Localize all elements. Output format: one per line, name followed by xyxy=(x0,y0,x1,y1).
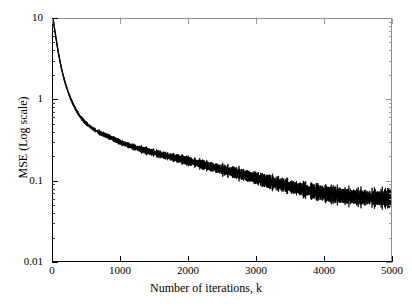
mse-curve xyxy=(53,19,391,261)
y-minor-tick xyxy=(389,124,392,125)
x-tick-2000 xyxy=(188,256,189,262)
y-minor-tick xyxy=(52,199,55,200)
y-minor-tick xyxy=(389,142,392,143)
x-tick-4000 xyxy=(324,256,325,262)
y-minor-tick xyxy=(389,50,392,51)
x-tick-3000 xyxy=(256,19,257,24)
y-minor-tick xyxy=(52,223,55,224)
y-minor-tick xyxy=(52,112,55,113)
y-minor-tick xyxy=(389,156,392,157)
y-minor-tick xyxy=(389,112,392,113)
x-axis-title: Number of iterations, k xyxy=(0,281,412,296)
x-tick-label-4000: 4000 xyxy=(294,265,354,276)
y-minor-tick xyxy=(52,156,55,157)
y-minor-tick xyxy=(389,199,392,200)
y-minor-tick xyxy=(389,26,392,27)
x-tick-label-0: 0 xyxy=(22,265,82,276)
y-minor-tick xyxy=(52,213,55,214)
x-tick-1000 xyxy=(120,19,121,24)
y-minor-tick xyxy=(52,103,55,104)
y-minor-tick xyxy=(52,36,55,37)
y-minor-tick xyxy=(389,42,392,43)
y-minor-tick xyxy=(52,50,55,51)
y-tick-label-0.1: 0.1 xyxy=(29,175,43,186)
y-minor-tick xyxy=(389,31,392,32)
y-minor-tick xyxy=(52,238,55,239)
y-minor-tick xyxy=(389,213,392,214)
y-minor-tick xyxy=(52,205,55,206)
y-tick-0.1 xyxy=(386,181,392,182)
x-tick-0 xyxy=(52,19,53,24)
y-tick-1 xyxy=(52,99,58,100)
x-tick-3000 xyxy=(256,256,257,262)
y-minor-tick xyxy=(52,61,55,62)
y-minor-tick xyxy=(52,117,55,118)
y-minor-tick xyxy=(52,193,55,194)
y-minor-tick xyxy=(389,75,392,76)
y-minor-tick xyxy=(389,193,392,194)
y-minor-tick xyxy=(52,142,55,143)
y-minor-tick xyxy=(389,238,392,239)
x-tick-0 xyxy=(52,256,53,262)
y-minor-tick xyxy=(52,26,55,27)
y-minor-tick xyxy=(52,42,55,43)
x-tick-4000 xyxy=(324,19,325,24)
y-minor-tick xyxy=(52,107,55,108)
y-minor-tick xyxy=(52,132,55,133)
y-minor-tick xyxy=(52,124,55,125)
y-tick-1 xyxy=(386,99,392,100)
y-minor-tick xyxy=(389,107,392,108)
x-tick-5000 xyxy=(392,256,393,262)
y-minor-tick xyxy=(389,184,392,185)
y-tick-0.01 xyxy=(386,262,392,263)
y-minor-tick xyxy=(389,132,392,133)
y-minor-tick xyxy=(389,189,392,190)
y-minor-tick xyxy=(389,117,392,118)
x-tick-5000 xyxy=(392,19,393,24)
y-minor-tick xyxy=(52,75,55,76)
x-tick-label-3000: 3000 xyxy=(226,265,286,276)
y-minor-tick xyxy=(389,61,392,62)
mse-noise-band xyxy=(53,19,391,210)
y-tick-0.1 xyxy=(52,181,58,182)
x-tick-label-2000: 2000 xyxy=(158,265,218,276)
y-tick-label-1: 1 xyxy=(38,93,44,104)
y-minor-tick xyxy=(52,31,55,32)
y-axis-title: MSE (Log scale) xyxy=(16,53,31,223)
y-tick-label-10: 10 xyxy=(32,12,43,23)
y-minor-tick xyxy=(52,184,55,185)
y-minor-tick xyxy=(389,36,392,37)
chart-figure: 1010.10.01 010002000300040005000 Number … xyxy=(0,0,412,307)
x-tick-label-5000: 5000 xyxy=(362,265,412,276)
x-tick-label-1000: 1000 xyxy=(90,265,150,276)
y-minor-tick xyxy=(389,205,392,206)
y-minor-tick xyxy=(389,103,392,104)
x-tick-2000 xyxy=(188,19,189,24)
y-minor-tick xyxy=(389,223,392,224)
y-minor-tick xyxy=(52,189,55,190)
x-tick-1000 xyxy=(120,256,121,262)
plot-area xyxy=(52,18,392,262)
y-tick-0.01 xyxy=(52,262,58,263)
